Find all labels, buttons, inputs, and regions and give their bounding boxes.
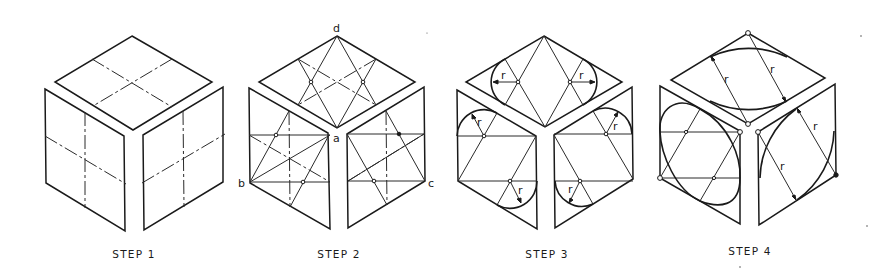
radius-label: r [477,116,482,129]
radius-label: r [518,184,523,197]
step-3-label: STEP 3 [525,248,568,260]
diagram-canvas: d a b c r r r r [0,0,884,279]
radius-label: r [579,69,584,82]
step-1-label: STEP 1 [112,248,155,260]
point-label-d: d [333,22,340,35]
radius-label: r [813,120,818,133]
step-4-cube: r r r r [658,31,839,225]
radius-label: r [568,183,573,196]
step-2-top-face [259,36,415,128]
point-label-a: a [333,132,340,145]
step-3-cube: r r r r r r [457,36,633,229]
point-label-b: b [238,177,245,190]
step-1-cube [45,36,225,231]
radius-label: r [501,69,506,82]
isometric-circle-diagram: d a b c r r r r [0,0,884,279]
step-2-cube: d a b c [238,22,434,229]
radius-label: r [724,73,729,86]
step-3-right-face [554,87,633,228]
radius-label: r [770,63,775,76]
point-label-c: c [428,177,434,190]
step-1-top-face [55,36,212,130]
radius-label: r [780,160,785,173]
step-3-left-face [457,90,537,229]
step-3-top-face [466,36,622,127]
step-4-label: STEP 4 [728,245,771,257]
step-2-label: STEP 2 [317,248,360,260]
radius-label: r [613,120,618,133]
